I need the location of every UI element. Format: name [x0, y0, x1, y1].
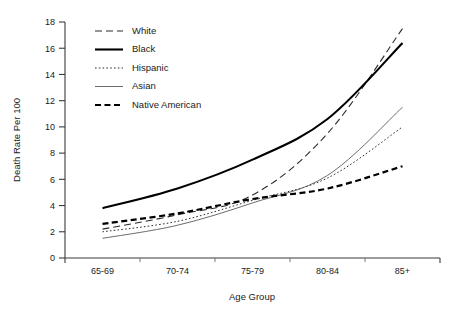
x-tick-label: 70-74: [166, 266, 189, 276]
data-series-group: [103, 29, 403, 239]
line-chart: 024681012141618 65-6970-7475-7980-8485+ …: [0, 0, 451, 316]
legend-label-white: White: [132, 25, 156, 36]
series-line-hispanic: [103, 127, 403, 232]
y-tick-label: 2: [50, 227, 55, 237]
legend-label-asian: Asian: [132, 80, 156, 91]
legend-label-hispanic: Hispanic: [132, 62, 169, 73]
x-axis-title: Age Group: [229, 291, 275, 302]
y-tick-label: 10: [45, 122, 55, 132]
x-tick-label: 85+: [395, 266, 410, 276]
y-tick-label: 8: [50, 148, 55, 158]
x-tick-label: 80-84: [316, 266, 339, 276]
y-tick-label: 0: [50, 253, 55, 263]
y-axis-tick-labels: 024681012141618: [45, 17, 55, 263]
x-axis-tick-labels: 65-6970-7475-7980-8485+: [91, 266, 410, 276]
series-line-asian: [103, 107, 403, 238]
y-tick-label: 12: [45, 96, 55, 106]
legend-label-black: Black: [132, 43, 155, 54]
y-tick-label: 6: [50, 175, 55, 185]
x-axis-ticks: [65, 258, 440, 263]
y-tick-label: 14: [45, 70, 55, 80]
legend-label-native-american: Native American: [132, 99, 201, 110]
y-tick-label: 18: [45, 17, 55, 27]
x-tick-label: 75-79: [241, 266, 264, 276]
chart-container: 024681012141618 65-6970-7475-7980-8485+ …: [0, 0, 451, 316]
y-axis-ticks: [59, 22, 65, 258]
x-tick-label: 65-69: [91, 266, 114, 276]
chart-legend: WhiteBlackHispanicAsianNative American: [95, 25, 201, 110]
y-tick-label: 16: [45, 44, 55, 54]
y-tick-label: 4: [50, 201, 55, 211]
y-axis-title: Death Rate Per 100: [11, 98, 22, 182]
